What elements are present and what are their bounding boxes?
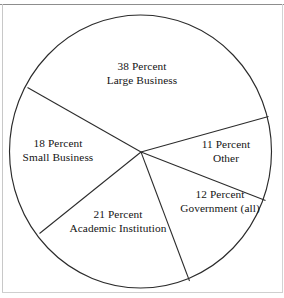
pie-chart-figure: 38 Percent Large Business 18 Percent Sma… xyxy=(0,0,284,298)
slice-percent-large-business: 38 Percent xyxy=(77,60,207,74)
slice-label-small-business: 18 Percent Small Business xyxy=(3,137,113,165)
slice-name-academic: Academic Institution xyxy=(51,222,185,236)
slice-percent-other: 11 Percent xyxy=(180,138,272,152)
slice-name-other: Other xyxy=(180,152,272,166)
slice-percent-small-business: 18 Percent xyxy=(3,137,113,151)
slice-label-academic: 21 Percent Academic Institution xyxy=(51,208,185,236)
slice-percent-government: 12 Percent xyxy=(163,188,277,202)
slice-label-other: 11 Percent Other xyxy=(180,138,272,166)
slice-percent-academic: 21 Percent xyxy=(51,208,185,222)
slice-name-small-business: Small Business xyxy=(3,151,113,165)
slice-label-large-business: 38 Percent Large Business xyxy=(77,60,207,88)
slice-name-large-business: Large Business xyxy=(77,74,207,88)
